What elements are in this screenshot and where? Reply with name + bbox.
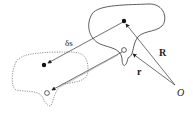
displacement-vector-2 <box>52 52 122 90</box>
displacement-vector-1 <box>48 22 123 63</box>
point-filled-displaced <box>42 63 46 67</box>
label-R: R <box>159 47 167 58</box>
displacement-vector-2-shadow <box>60 55 118 87</box>
label-r: r <box>137 66 142 77</box>
point-open-original <box>122 48 127 53</box>
label-origin: O <box>177 87 184 98</box>
body-displaced-outline <box>12 52 88 106</box>
label-ds: δs <box>65 38 73 48</box>
point-filled-original <box>122 19 126 23</box>
rigid-body-displacement-diagram: R r δs O <box>0 0 193 113</box>
point-open-displaced <box>45 91 50 96</box>
